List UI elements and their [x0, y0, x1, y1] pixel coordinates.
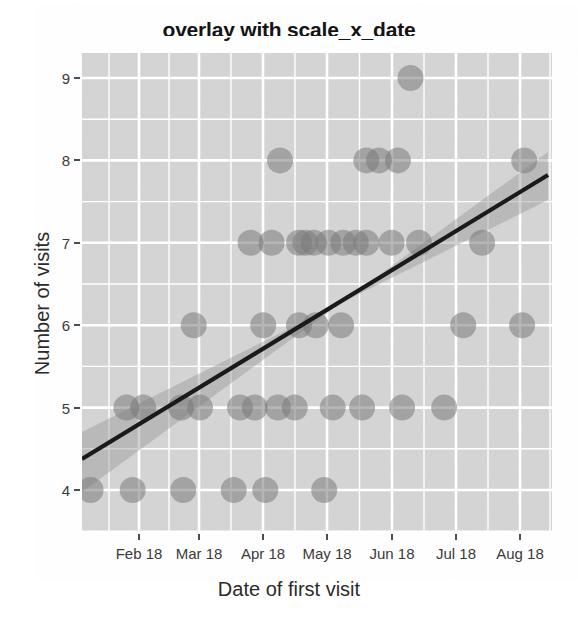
x-tick-mark — [455, 534, 457, 540]
data-point — [353, 230, 379, 256]
y-tick-mark — [74, 242, 80, 244]
x-tick-mark — [138, 534, 140, 540]
data-point — [349, 395, 375, 421]
x-tick-label: Jul 18 — [436, 545, 476, 562]
x-tick-label: Jun 18 — [369, 545, 414, 562]
y-tick-mark — [74, 407, 80, 409]
plot-panel — [0, 0, 578, 633]
data-point — [259, 230, 285, 256]
x-tick-label: Feb 18 — [116, 545, 163, 562]
data-point — [252, 477, 278, 503]
data-point — [187, 395, 213, 421]
x-tick-mark — [391, 534, 393, 540]
data-point — [509, 312, 535, 338]
x-tick-mark — [198, 534, 200, 540]
x-tick-mark — [262, 534, 264, 540]
y-tick-mark — [74, 159, 80, 161]
data-point — [431, 395, 457, 421]
x-tick-label: Mar 18 — [176, 545, 223, 562]
data-point — [389, 395, 415, 421]
panel-background — [82, 53, 552, 532]
y-tick-mark — [74, 77, 80, 79]
y-tick-mark — [74, 324, 80, 326]
data-point — [242, 395, 268, 421]
data-point — [320, 395, 346, 421]
data-point — [398, 65, 424, 91]
x-tick-label: May 18 — [302, 545, 351, 562]
data-point — [221, 477, 247, 503]
x-tick-mark — [519, 534, 521, 540]
data-point — [282, 395, 308, 421]
x-axis: Feb 18Mar 18Apr 18May 18Jun 18Jul 18Aug … — [0, 545, 578, 571]
data-point — [311, 477, 337, 503]
data-point — [78, 477, 104, 503]
data-point — [267, 147, 293, 173]
x-axis-title: Date of first visit — [0, 578, 578, 601]
x-tick-label: Apr 18 — [241, 545, 285, 562]
data-point — [450, 312, 476, 338]
data-point — [469, 230, 495, 256]
data-point — [511, 147, 537, 173]
data-point — [328, 312, 354, 338]
data-point — [250, 312, 276, 338]
data-point — [385, 147, 411, 173]
data-point — [170, 477, 196, 503]
y-axis-title: Number of visits — [31, 74, 54, 534]
data-point — [379, 230, 405, 256]
x-tick-mark — [326, 534, 328, 540]
chart-root: overlay with scale_x_date — [0, 0, 578, 633]
data-point — [120, 477, 146, 503]
data-point — [181, 312, 207, 338]
x-tick-label: Aug 18 — [496, 545, 544, 562]
y-tick-mark — [74, 489, 80, 491]
